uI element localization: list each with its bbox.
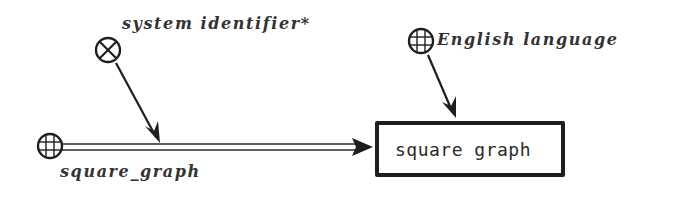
edge-system-identifier: [116, 63, 160, 143]
globe-icon[interactable]: [38, 134, 62, 158]
double-arrow-head-icon: [352, 138, 373, 156]
square-graph-node-label: square graph: [395, 139, 531, 160]
x-circle-icon[interactable]: [96, 38, 120, 62]
double-line-arrow: [62, 138, 373, 156]
arrow-head-icon: [442, 96, 456, 118]
arrow-head-icon: [145, 121, 160, 143]
edge-english-language: [428, 55, 456, 118]
english-language-label: English language: [437, 32, 619, 48]
square-graph-node[interactable]: square graph: [375, 121, 565, 177]
diagram-canvas: system identifier* English language squa…: [0, 0, 699, 198]
square-graph-source-label: square_graph: [60, 164, 201, 180]
globe-icon[interactable]: [409, 29, 433, 53]
system-identifier-label: system identifier*: [122, 16, 311, 32]
